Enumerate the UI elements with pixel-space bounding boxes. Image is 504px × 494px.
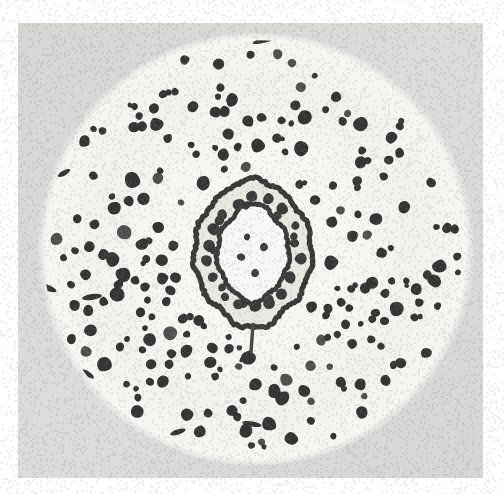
micrograph-image — [0, 0, 504, 494]
micrograph-figure — [0, 0, 504, 494]
